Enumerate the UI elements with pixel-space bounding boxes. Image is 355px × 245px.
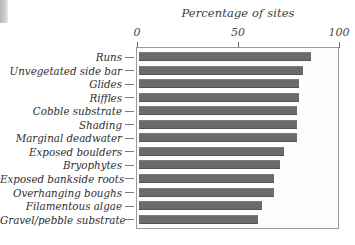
label-connector-dash bbox=[125, 138, 134, 139]
chart-figure: Percentage of sites 050100 RunsUnvegetat… bbox=[0, 0, 355, 245]
label-connector-dash bbox=[125, 97, 134, 98]
category-label: Shading bbox=[0, 120, 122, 130]
x-tick-label: 100 bbox=[329, 26, 350, 39]
bar-row: Marginal deadwater bbox=[0, 133, 355, 147]
bar-row: Gravel/pebble substrate bbox=[0, 215, 355, 229]
chart-title: Percentage of sites bbox=[137, 6, 339, 20]
bar bbox=[139, 79, 299, 88]
category-label: Filamentous algae bbox=[0, 201, 122, 211]
category-label: Marginal deadwater bbox=[0, 133, 122, 143]
category-label: Bryophytes bbox=[0, 160, 122, 170]
label-connector-dash bbox=[125, 124, 134, 125]
x-tick-label: 50 bbox=[231, 26, 245, 39]
label-connector-dash bbox=[125, 84, 134, 85]
category-label: Unvegetated side bar bbox=[0, 66, 122, 76]
bar-row: Riffles bbox=[0, 93, 355, 107]
bar bbox=[139, 188, 274, 197]
bar-row: Runs bbox=[0, 52, 355, 66]
bar bbox=[139, 201, 262, 210]
bar bbox=[139, 106, 297, 115]
bar-row: Overhanging boughs bbox=[0, 188, 355, 202]
x-tick-mark bbox=[339, 42, 340, 48]
category-label: Exposed boulders bbox=[0, 147, 122, 157]
category-label: Runs bbox=[0, 52, 122, 62]
bar bbox=[139, 215, 258, 224]
category-label: Cobble substrate bbox=[0, 106, 122, 116]
x-tick-label: 0 bbox=[134, 26, 141, 39]
bar-row: Unvegetated side bar bbox=[0, 66, 355, 80]
category-label: Overhanging boughs bbox=[0, 188, 122, 198]
scan-edge-artifact bbox=[0, 0, 8, 23]
label-connector-dash bbox=[125, 165, 134, 166]
label-connector-dash bbox=[125, 192, 134, 193]
label-connector-dash bbox=[125, 70, 134, 71]
bar-row: Filamentous algae bbox=[0, 201, 355, 215]
category-label: Glides bbox=[0, 79, 122, 89]
bar bbox=[139, 93, 299, 102]
bar-row: Cobble substrate bbox=[0, 106, 355, 120]
label-connector-dash bbox=[125, 151, 134, 152]
label-connector-dash bbox=[125, 178, 134, 179]
bar bbox=[139, 147, 284, 156]
category-label: Riffles bbox=[0, 93, 122, 103]
bar bbox=[139, 66, 303, 75]
bar-row: Exposed boulders bbox=[0, 147, 355, 161]
bar-row: Glides bbox=[0, 79, 355, 93]
bar bbox=[139, 174, 274, 183]
bar-row: Shading bbox=[0, 120, 355, 134]
category-label: Exposed bankside roots bbox=[0, 174, 122, 184]
label-connector-dash bbox=[125, 111, 134, 112]
bar-row: Exposed bankside roots bbox=[0, 174, 355, 188]
bar-row: Bryophytes bbox=[0, 160, 355, 174]
label-connector-dash bbox=[125, 219, 134, 220]
label-connector-dash bbox=[125, 206, 134, 207]
bar bbox=[139, 133, 297, 142]
bar bbox=[139, 52, 311, 61]
category-label: Gravel/pebble substrate bbox=[0, 215, 122, 225]
bar bbox=[139, 160, 280, 169]
label-connector-dash bbox=[125, 57, 134, 58]
bar bbox=[139, 120, 297, 129]
